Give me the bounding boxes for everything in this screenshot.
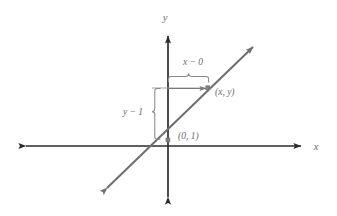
generic-point-label: (x, y) bbox=[215, 87, 235, 98]
y-axis-label: y bbox=[162, 12, 168, 23]
run-brace bbox=[169, 74, 209, 83]
rise-brace bbox=[152, 89, 160, 140]
x-axis-label: x bbox=[313, 141, 319, 152]
run-label: x − 0 bbox=[182, 57, 203, 67]
y-intercept-label: (0, 1) bbox=[178, 131, 199, 142]
plotted-line bbox=[107, 47, 253, 188]
figure-container: x y x − 0 y − 1 (x, y) (0, 1) bbox=[0, 0, 337, 216]
point-marker-y-intercept bbox=[166, 138, 171, 143]
coordinate-plane-diagram: x y x − 0 y − 1 (x, y) (0, 1) bbox=[0, 0, 337, 216]
rise-label: y − 1 bbox=[122, 107, 143, 117]
